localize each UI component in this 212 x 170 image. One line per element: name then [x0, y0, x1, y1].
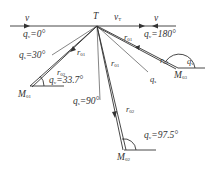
case3-r01-label: r01 — [124, 33, 132, 42]
case2-qv-angle-label: qv=97.5° — [144, 131, 178, 141]
m01-label: M01 — [18, 90, 31, 100]
case3-qv-label: qv=180° — [144, 30, 176, 40]
velocity-target-label: vT — [114, 13, 121, 23]
arrow-v-left-icon — [24, 24, 30, 29]
case2-r01-label: r01 — [111, 59, 119, 68]
velocity-label-right: v — [154, 14, 158, 24]
case1-qs-label: qs=30° — [19, 51, 45, 61]
case3-r02-label: r02 — [160, 56, 168, 65]
line-qs-30 — [52, 26, 97, 55]
case1-r01-label: r01 — [77, 48, 85, 57]
case3-qs-label: qs — [150, 75, 156, 84]
case1-qv-angle-label: qv=33.7° — [49, 76, 83, 86]
m02-label: M02 — [117, 153, 130, 163]
arrow-v-right-icon — [152, 24, 158, 29]
target-label: T — [93, 12, 98, 22]
line-t-m02-b — [97, 26, 126, 150]
line-qs-m03 — [97, 26, 148, 72]
geometry-diagram — [0, 0, 212, 170]
arrow-vt-icon — [139, 24, 145, 29]
case2-r02-label: r02 — [126, 105, 134, 114]
velocity-label-left: v — [25, 14, 29, 24]
m03-label: M03 — [174, 71, 187, 81]
case3-qv-angle-label: qv — [187, 57, 194, 66]
case1-qv-label: qv=0° — [23, 30, 45, 40]
case2-qs-label: qs=90° — [73, 97, 99, 107]
